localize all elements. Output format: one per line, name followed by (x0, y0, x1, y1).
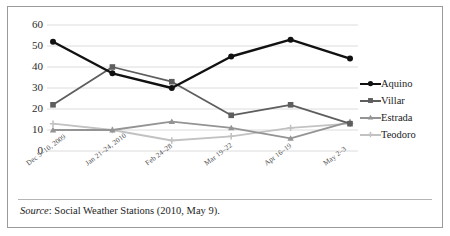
legend-marker-icon (367, 80, 374, 87)
data-point-marker (228, 133, 234, 139)
data-point-marker (169, 85, 175, 91)
legend-item-estrada[interactable]: Estrada (360, 109, 444, 126)
legend-swatch-icon (360, 78, 381, 90)
caption-divider (18, 199, 432, 200)
data-point-marker (228, 113, 234, 119)
data-point-marker (368, 81, 373, 86)
legend-item-teodoro[interactable]: Teodoro (360, 126, 444, 143)
data-point-marker (368, 115, 374, 120)
y-tick-label: 40 (21, 61, 43, 72)
legend-item-villar[interactable]: Villar (360, 92, 444, 109)
data-point-marker (109, 70, 115, 76)
data-point-marker (368, 98, 373, 103)
legend-swatch-icon (360, 129, 381, 141)
data-point-marker (169, 79, 175, 85)
data-point-marker (288, 102, 294, 108)
legend-label: Estrada (381, 112, 413, 124)
source-label: Source (20, 205, 49, 216)
chart-legend: AquinoVillarEstradaTeodoro (360, 75, 444, 143)
legend-marker-icon (367, 131, 374, 138)
series-aquino (50, 37, 353, 91)
y-tick-label: 10 (21, 124, 43, 135)
legend-marker-icon (367, 97, 374, 104)
data-point-marker (228, 54, 234, 60)
data-point-marker (288, 37, 294, 43)
legend-label: Aquino (381, 78, 413, 90)
figure-frame: 0102030405060 Dec 5–10, 2009Jan 21–24, 2… (7, 6, 443, 228)
data-point-marker (110, 64, 116, 70)
series-line (53, 124, 350, 141)
data-point-marker (347, 121, 353, 127)
source-value: : Social Weather Stations (2010, May 9). (49, 205, 220, 216)
data-point-marker (347, 56, 353, 62)
legend-item-aquino[interactable]: Aquino (360, 75, 444, 92)
legend-swatch-icon (360, 95, 381, 107)
series-line (53, 40, 350, 88)
legend-label: Villar (381, 95, 405, 107)
series-line (53, 67, 350, 124)
y-tick-label: 50 (21, 40, 43, 51)
data-point-marker (368, 132, 374, 138)
legend-marker-icon (367, 114, 374, 121)
data-point-marker (50, 121, 56, 127)
legend-swatch-icon (360, 112, 381, 124)
data-point-marker (50, 39, 56, 45)
legend-label: Teodoro (381, 129, 416, 141)
data-point-marker (50, 102, 56, 108)
y-tick-label: 30 (21, 82, 43, 93)
y-tick-label: 60 (21, 19, 43, 30)
y-tick-label: 20 (21, 103, 43, 114)
source-caption: Source: Social Weather Stations (2010, M… (20, 205, 220, 216)
